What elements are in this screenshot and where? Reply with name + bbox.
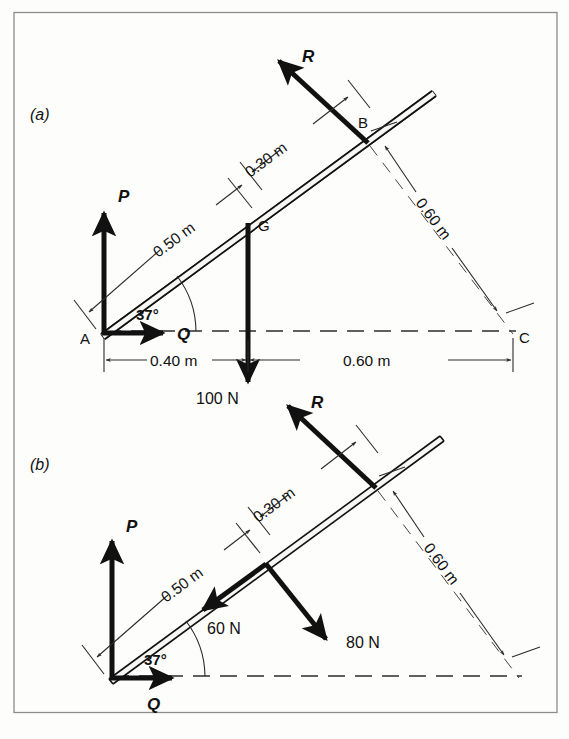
dim-label-050-a: 0.50 m bbox=[150, 219, 198, 261]
figure-border bbox=[14, 13, 557, 713]
dim-label-060-perp-b: 0.60 m bbox=[421, 540, 463, 588]
force-vector-80N-b bbox=[266, 564, 326, 639]
force-label-P-b: P bbox=[126, 517, 138, 536]
force-label-R-b: R bbox=[311, 393, 324, 412]
part-b-group: P Q 37° R 60 N 80 N 0.50 m bbox=[30, 393, 540, 714]
dim-tick-030-end-b bbox=[356, 425, 378, 453]
dim-leader-050-b-upper bbox=[224, 530, 250, 550]
force-label-weight-a: 100 N bbox=[196, 390, 239, 407]
rod-body-a bbox=[101, 91, 436, 339]
force-label-Q-b: Q bbox=[147, 695, 160, 714]
point-label-G-a: G bbox=[258, 217, 270, 234]
dim-label-060-horiz-a: 0.60 m bbox=[343, 352, 390, 369]
mechanics-free-body-diagram: P Q A 37° R B 100 N G C bbox=[0, 0, 569, 739]
force-label-R-a: R bbox=[302, 47, 315, 66]
dim-leader-060p-a-upper bbox=[385, 146, 416, 192]
force-vector-R-b bbox=[288, 406, 376, 488]
force-vector-R-a bbox=[279, 61, 368, 143]
rod-body-b bbox=[109, 436, 444, 684]
angle-label-a: 37° bbox=[136, 306, 159, 323]
dim-tick-050-start-b bbox=[82, 645, 104, 674]
dim-label-030-b: 0.30 m bbox=[250, 484, 298, 526]
point-label-A-a: A bbox=[80, 330, 90, 347]
dim-tick-060p-end-b bbox=[512, 647, 540, 657]
dim-leader-060p-b-lower bbox=[460, 593, 504, 655]
caption-part-a: (a) bbox=[30, 106, 50, 123]
part-a-group: P Q A 37° R B 100 N G C bbox=[30, 47, 534, 407]
dim-label-030-a: 0.30 m bbox=[242, 139, 290, 181]
dim-leader-060p-a-lower bbox=[452, 248, 497, 311]
dim-label-060-perp-a: 0.60 m bbox=[413, 195, 455, 243]
rod-edge-a-2 bbox=[105, 96, 436, 339]
force-label-80N-b: 80 N bbox=[346, 634, 380, 651]
dim-leader-060p-b-upper bbox=[393, 491, 424, 537]
dim-tick-060p-end-a bbox=[506, 303, 534, 313]
dim-tick-050-start-a bbox=[74, 300, 96, 329]
rod-lower-edge-b bbox=[113, 441, 444, 684]
dim-label-040-a: 0.40 m bbox=[150, 352, 197, 369]
force-vector-60N-b bbox=[203, 564, 266, 610]
dim-tick-030-end-a bbox=[348, 80, 370, 108]
force-label-Q-a: Q bbox=[177, 325, 190, 344]
caption-part-b: (b) bbox=[30, 456, 50, 473]
dim-leader-050-a-upper bbox=[216, 185, 242, 205]
force-label-P-a: P bbox=[118, 187, 130, 206]
point-label-C-a: C bbox=[519, 329, 530, 346]
force-label-60N-b: 60 N bbox=[207, 620, 241, 637]
point-label-B-a: B bbox=[358, 114, 368, 131]
figure-canvas: P Q A 37° R B 100 N G C bbox=[0, 0, 569, 739]
angle-label-b: 37° bbox=[144, 651, 167, 668]
dim-label-050-b: 0.50 m bbox=[158, 564, 206, 606]
